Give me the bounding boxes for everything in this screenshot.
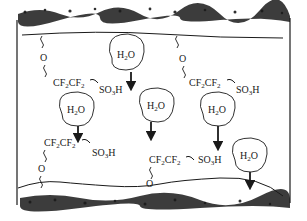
oxygen-label: O [40,52,47,63]
water-molecule-4: H2O [200,92,235,146]
bottom-electrode-layer [20,189,290,212]
side-chain-3: CF2CF2 SO3H O [38,137,116,188]
water-molecule-2: H2O [59,92,94,138]
so3h-label: SO3H [99,84,123,97]
oxygen-label: O [38,163,45,174]
side-chain-2: O CF2CF2 SO3H [176,36,260,97]
cf2cf2-label: CF2CF2 [44,137,76,150]
top-electrode-layer [18,0,290,27]
membrane-diagram: O CF2CF2 SO3H O CF2CF2 SO3H CF2CF2 SO3H … [0,0,307,221]
h2o-label: H2O [208,104,226,117]
cf2cf2-label: CF2CF2 [189,77,221,90]
h2o-label: H2O [117,49,135,62]
oxygen-label: O [146,178,153,189]
top-polymer-backbone [22,32,283,38]
h2o-label: H2O [240,150,258,163]
so3h-label: SO3H [236,84,260,97]
so3h-label: SO3H [92,147,116,160]
h2o-label: H2O [147,100,165,113]
so3h-label: SO3H [198,154,222,167]
cf2cf2-label: CF2CF2 [149,154,181,167]
water-molecule-3: H2O [139,88,174,136]
h2o-label: H2O [67,104,85,117]
cf2cf2-label: CF2CF2 [53,77,85,90]
oxygen-label: O [179,53,186,64]
side-chain-4: CF2CF2 SO3H O [146,154,222,189]
water-molecule-1: H2O [109,34,144,86]
